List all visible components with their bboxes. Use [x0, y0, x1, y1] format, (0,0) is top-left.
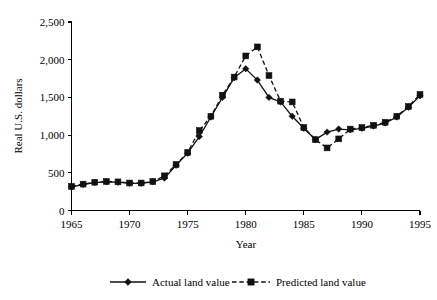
data-point-marker-diamond — [335, 126, 341, 132]
y-tick-label: 2,000 — [40, 54, 65, 66]
x-tick-label: 1980 — [235, 218, 258, 230]
x-tick-label: 1995 — [409, 218, 432, 230]
y-tick-label: 1,000 — [40, 129, 65, 141]
chart-figure: 05001,0001,5002,0002,500 196519701975198… — [0, 0, 437, 300]
data-point-marker-square — [127, 180, 133, 186]
legend-label-predicted: Predicted land value — [276, 276, 366, 288]
y-axis-tick-labels: 05001,0001,5002,0002,500 — [40, 16, 65, 217]
y-tick-label: 1,500 — [40, 91, 65, 103]
data-point-marker-square — [405, 104, 411, 110]
axes-group — [68, 22, 421, 215]
x-tick-label: 1965 — [61, 218, 84, 230]
data-point-marker-square — [150, 179, 156, 185]
data-point-marker-square — [394, 113, 400, 119]
data-point-marker-square — [289, 99, 295, 105]
data-point-marker-diamond — [324, 129, 330, 135]
x-tick-label: 1975 — [177, 218, 200, 230]
data-point-marker-square — [243, 53, 249, 59]
y-tick-label: 2,500 — [40, 16, 65, 28]
y-tick-label: 500 — [48, 167, 65, 179]
data-point-marker-square — [417, 91, 423, 97]
data-point-marker-square — [359, 125, 365, 131]
y-axis-title: Real U.S. dollars — [12, 78, 24, 153]
data-point-marker-square — [92, 179, 98, 185]
land-value-line-chart: 05001,0001,5002,0002,500 196519701975198… — [0, 0, 437, 300]
x-tick-label: 1970 — [119, 218, 142, 230]
x-axis-title: Year — [236, 238, 257, 250]
data-point-marker-square — [254, 44, 260, 50]
data-point-marker-diamond — [125, 279, 132, 286]
data-point-marker-square — [382, 119, 388, 125]
data-point-marker-square — [80, 181, 86, 187]
data-point-marker-square — [173, 162, 179, 168]
data-point-marker-square — [336, 136, 342, 142]
data-point-marker-square — [103, 179, 109, 185]
series-actual — [68, 66, 423, 191]
x-tick-label: 1985 — [293, 218, 316, 230]
data-point-marker-square — [248, 279, 254, 285]
data-point-marker-square — [324, 145, 330, 151]
data-point-marker-square — [313, 137, 319, 143]
data-point-marker-square — [266, 73, 272, 79]
legend-label-actual: Actual land value — [152, 276, 230, 288]
data-series-group — [68, 44, 423, 190]
x-tick-label: 1990 — [351, 218, 374, 230]
data-point-marker-square — [115, 179, 121, 185]
data-point-marker-square — [185, 150, 191, 156]
data-point-marker-square — [208, 113, 214, 119]
data-point-marker-square — [278, 98, 284, 104]
data-point-marker-square — [138, 180, 144, 186]
data-point-marker-square — [196, 128, 202, 134]
data-point-marker-square — [220, 92, 226, 98]
y-tick-label: 0 — [59, 205, 65, 217]
data-point-marker-square — [371, 122, 377, 128]
x-axis-tick-labels: 1965197019751980198519901995 — [61, 218, 432, 230]
data-point-marker-square — [347, 126, 353, 132]
data-point-marker-square — [162, 173, 168, 179]
data-point-marker-square — [69, 183, 75, 189]
data-point-marker-square — [231, 74, 237, 80]
series-line — [72, 69, 421, 187]
data-point-marker-square — [301, 125, 307, 131]
chart-legend: Actual land valuePredicted land value — [110, 276, 366, 288]
